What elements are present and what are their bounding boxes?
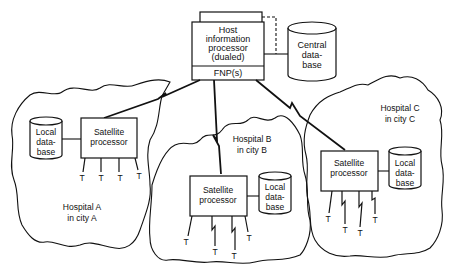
terminal-b4: T <box>246 233 251 243</box>
hospital-c-proc-line-1: Satellite <box>334 158 365 168</box>
terminal-a2: T <box>98 173 103 183</box>
terminal-b2: T <box>212 247 217 257</box>
hospital-c-db-line-3: base <box>396 178 415 188</box>
terminal-c2: T <box>342 225 347 235</box>
hospital-c-name: Hospital C <box>380 103 419 113</box>
network-diagram: Host information processor (dualed) FNP(… <box>0 0 451 271</box>
hospital-a: Local data- base Satellite processor T T… <box>30 117 142 223</box>
hospital-c-proc-line-2: processor <box>330 168 367 178</box>
hospital-c: Hospital C in city C Satellite processor… <box>321 103 421 238</box>
terminal-a3: T <box>117 173 122 183</box>
hospital-a-db-line-2: data- <box>36 137 56 147</box>
central-db-line-1: Central <box>297 40 326 50</box>
hospital-b-city: in city B <box>237 145 267 155</box>
central-db-line-2: data- <box>302 50 323 60</box>
hospital-a-boundary <box>11 80 170 249</box>
hospital-a-name: Hospital A <box>63 202 102 212</box>
host-title-line-4: (dualed) <box>211 52 244 62</box>
host-processor: Host information processor (dualed) FNP(… <box>192 12 276 80</box>
hospital-b-proc-line-2: processor <box>199 195 236 205</box>
terminal-c4: T <box>372 215 377 225</box>
terminal-a4: T <box>136 171 141 181</box>
hospital-a-proc-line-2: processor <box>90 137 127 147</box>
hospital-b-proc-line-1: Satellite <box>203 185 234 195</box>
fnp-label: FNP(s) <box>214 68 243 78</box>
terminal-b1: T <box>183 237 188 247</box>
hospital-b-name: Hospital B <box>233 134 272 144</box>
hospital-a-proc-line-1: Satellite <box>94 127 125 137</box>
hospital-a-db-line-1: Local <box>36 127 56 137</box>
terminal-c3: T <box>357 228 362 238</box>
central-db-line-3: base <box>302 60 322 70</box>
hospital-a-city: in city A <box>67 213 97 223</box>
hospital-c-city: in city C <box>385 114 415 124</box>
hospital-b-db-line-1: Local <box>265 182 285 192</box>
hospital-c-db-line-1: Local <box>395 158 415 168</box>
hospital-b-db-line-2: data- <box>265 192 285 202</box>
hospital-b-db-line-3: base <box>266 202 285 212</box>
hospital-a-db-line-3: base <box>37 147 56 157</box>
terminal-b3: T <box>231 251 236 261</box>
terminal-c1: T <box>325 214 330 224</box>
hospital-b: Hospital B in city B Satellite processor… <box>183 134 291 261</box>
terminal-a1: T <box>79 173 84 183</box>
hospital-c-db-line-2: data- <box>395 168 415 178</box>
central-database: Central data- base <box>288 22 336 81</box>
